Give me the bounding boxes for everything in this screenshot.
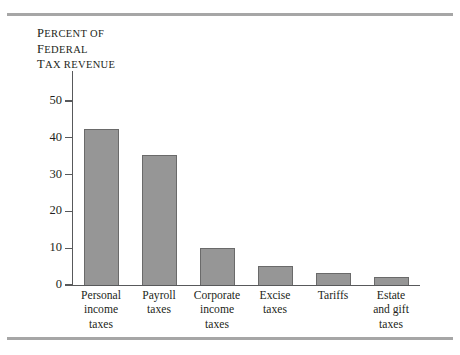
category-label-3-line-1: taxes: [240, 303, 310, 317]
y-tick-20: [65, 211, 72, 212]
x-axis-line: [72, 285, 420, 286]
category-label-5-line-1: and gift: [356, 303, 426, 317]
plot-area: 01020304050 PersonalincometaxesPayrollta…: [0, 0, 460, 355]
bar-4: [316, 273, 351, 285]
category-label-5-line-0: Estate: [356, 289, 426, 303]
y-tick-30: [65, 174, 72, 175]
bar-0: [84, 129, 119, 285]
y-tick-label-40: 40: [36, 131, 62, 144]
category-label-5: Estateand gifttaxes: [356, 289, 426, 332]
y-tick-50: [65, 100, 72, 101]
y-tick-10: [65, 248, 72, 249]
x-axis-category-labels: PersonalincometaxesPayrolltaxesCorporate…: [72, 289, 420, 349]
y-tick-label-20: 20: [36, 204, 62, 217]
bar-2: [200, 248, 235, 285]
figure: PERCENT OF FEDERAL TAX REVENUE 010203040…: [0, 0, 460, 355]
y-tick-40: [65, 137, 72, 138]
bar-5: [374, 277, 409, 285]
category-label-5-line-2: taxes: [356, 318, 426, 332]
bar-series: [72, 71, 420, 285]
y-tick-label-50: 50: [36, 94, 62, 107]
y-tick-label-10: 10: [36, 241, 62, 254]
y-tick-0: [65, 284, 72, 285]
category-label-0-line-2: taxes: [66, 318, 136, 332]
y-tick-label-0: 0: [36, 278, 62, 291]
bar-3: [258, 266, 293, 285]
bar-1: [142, 155, 177, 285]
y-tick-label-30: 30: [36, 168, 62, 181]
category-label-2-line-2: taxes: [182, 318, 252, 332]
